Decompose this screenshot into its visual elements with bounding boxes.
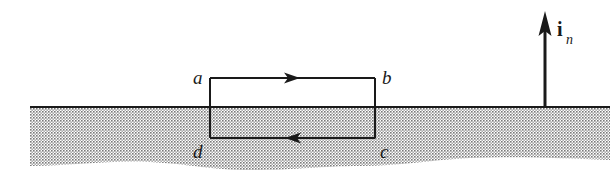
label-c: c xyxy=(380,141,389,162)
label-normal-subscript: n xyxy=(566,32,573,47)
label-a: a xyxy=(193,67,203,88)
interface-diagram: a b d c i n xyxy=(0,0,610,182)
label-normal-vector: i xyxy=(557,18,563,40)
label-d: d xyxy=(193,141,203,162)
label-b: b xyxy=(382,67,392,88)
